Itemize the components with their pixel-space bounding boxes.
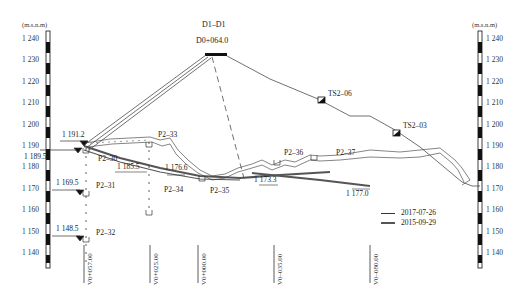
cross-section-drawing [0,0,527,301]
left-tick: 1 210 [22,98,39,107]
elevation-label: 1 191.2 [62,131,85,139]
point-label-p2-31: P2–31 [96,182,115,190]
left-tick: 1 160 [22,205,39,214]
elevation-label: 1 189.5 [24,153,47,161]
legend-label-2015: 2015-09-29 [401,218,436,228]
legend-label-2017: 2017-07-26 [401,208,436,218]
right-tick: 1 170 [486,184,503,193]
left-tick: 1 170 [22,184,39,193]
right-tick: 1 220 [486,77,503,86]
right-tick: 1 140 [486,248,503,257]
right-tick: 1 210 [486,98,503,107]
legend: 2017-07-26 2015-09-29 [381,208,436,228]
right-tick: 1 200 [486,120,503,129]
point-label-ts2-03: TS2–03 [403,122,427,130]
station-label: V0–035.00 [276,254,284,285]
legend-item-2015: 2015-09-29 [381,218,436,228]
legend-swatch-2017 [381,213,395,214]
crest-station-label: D0+064.0 [196,36,228,45]
left-tick: 1 190 [22,141,39,150]
left-tick: 1 230 [22,55,39,64]
right-tick: 1 160 [486,205,503,214]
left-tick: 1 200 [22,120,39,129]
dam-crest [205,53,227,56]
station-label: V0+000.00 [200,253,208,285]
ts2-06-marker [318,97,325,103]
right-tick: 1 190 [486,141,503,150]
left-unit-label: (m.s.n.m) [22,21,47,28]
station-bars [84,245,370,283]
section-title: D1–D1 [202,20,226,29]
point-label-p2-34: P2–34 [164,186,183,194]
point-label-p2-35: P2–35 [210,187,229,195]
point-label-p2-30: P2–30 [98,155,117,163]
station-label: V0+057.00 [86,253,94,285]
ts2-03-marker [393,130,400,136]
upstream-face [84,55,211,150]
right-tick: 1 230 [486,55,503,64]
left-tick: 1 150 [22,227,39,236]
right-elevation-scale [478,31,482,268]
legend-item-2017: 2017-07-26 [381,208,436,218]
left-tick: 1 140 [22,248,39,257]
elevation-label: 1 169.5 [56,179,79,187]
point-label-p2-33: P2–33 [158,131,177,139]
right-tick: 1 240 [486,34,503,43]
legend-swatch-2015 [381,222,395,224]
left-elevation-scale [46,31,50,268]
elevation-label: 1 177.0 [346,190,369,198]
elevation-label: 1 176.6 [165,164,188,172]
elevation-label: 1 185.5 [117,163,140,171]
right-tick: 1 180 [486,162,503,171]
left-tick: 1 240 [22,34,39,43]
dam-axis-dashed [212,57,245,182]
elevation-label: 1 173.3 [254,176,277,184]
displacement-2017 [85,137,470,185]
right-tick: 1 150 [486,227,503,236]
elevation-label: 1 148.5 [56,225,79,233]
station-label: V0+025.00 [152,253,160,285]
right-unit-label: (m.s.n.m) [472,21,497,28]
left-tick: 1 180 [22,162,39,171]
left-tick: 1 220 [22,77,39,86]
point-label-p2-36: P2–36 [284,149,303,157]
point-label-ts2-06: TS2–06 [328,90,352,98]
point-label-p2-32: P2–32 [96,229,115,237]
station-label: V0–080.00 [372,254,380,285]
point-label-p2-37: P2–37 [336,149,355,157]
